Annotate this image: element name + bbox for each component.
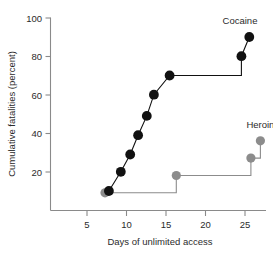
cocaine-step-path [109,37,249,191]
cocaine-point-day12 [142,111,152,121]
y-tick-label-80: 80 [31,51,42,62]
y-tick-label-20: 20 [31,167,42,178]
x-tick-label-15: 15 [161,219,172,230]
y-axis-ticks [46,18,51,172]
cocaine-point-day9 [116,167,126,177]
cocaine-series-label: Cocaine [223,15,258,26]
y-tick-label-40: 40 [31,128,42,139]
cocaine-point-day25 [244,32,254,42]
heroin-point-day26 [256,136,265,145]
cocaine-point-day24 [237,51,247,61]
x-axis-tick-labels: 5 10 15 20 25 [84,219,250,230]
cocaine-point-day10 [125,150,135,160]
cocaine-point-day11 [133,130,143,140]
cocaine-point-day13 [149,90,159,100]
heroin-point-day25 [246,154,255,163]
series-heroin: Heroin [100,119,273,197]
y-tick-label-60: 60 [31,90,42,101]
chart-figure: 100 80 60 40 20 5 10 15 20 25 Days of un… [0,0,273,257]
cocaine-point-day15 [165,71,175,81]
series-cocaine: Cocaine [104,15,257,196]
y-tick-label-100: 100 [26,13,42,24]
cocaine-point-day7 [104,186,114,196]
heroin-step-path [105,141,260,193]
x-axis-title: Days of unlimited access [107,236,212,247]
x-tick-label-10: 10 [121,219,132,230]
chart-axes [51,18,267,211]
heroin-series-label: Heroin [246,119,273,130]
cumulative-fatalities-line-chart: 100 80 60 40 20 5 10 15 20 25 Days of un… [0,0,273,257]
y-axis-tick-labels: 100 80 60 40 20 [26,13,42,178]
x-tick-label-5: 5 [84,219,89,230]
x-axis-ticks [87,211,245,217]
y-axis-title: Cumulative fatalities (percent) [6,51,17,177]
x-tick-label-20: 20 [200,219,211,230]
heroin-point-day18 [172,171,181,180]
x-tick-label-25: 25 [240,219,251,230]
